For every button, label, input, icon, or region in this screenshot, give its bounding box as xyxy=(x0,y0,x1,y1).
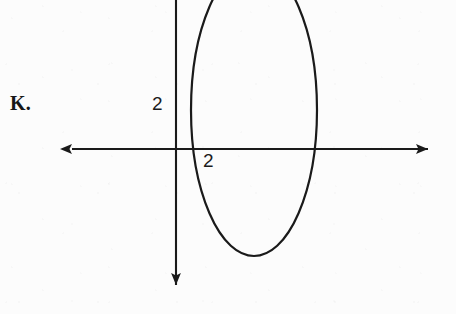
y-axis-tick-label: 2 xyxy=(152,93,163,115)
x-axis-tick-label: 2 xyxy=(203,150,214,172)
ellipse-curve xyxy=(191,0,317,256)
graph-figure: K. 2 2 xyxy=(0,0,456,314)
coordinate-plane-graphic xyxy=(0,0,456,314)
